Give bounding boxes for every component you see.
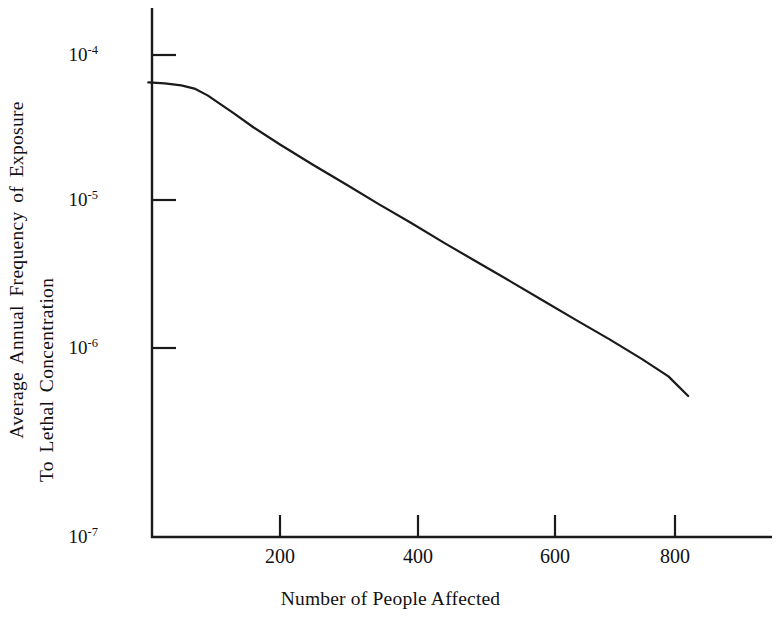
y-tick-marks [152, 55, 176, 348]
x-tick-marks [280, 515, 675, 537]
plot-area [0, 0, 781, 633]
axes-group [151, 8, 772, 538]
chart-figure: Average Annual Frequency of Exposure To … [0, 0, 781, 633]
data-series-line [148, 82, 688, 396]
